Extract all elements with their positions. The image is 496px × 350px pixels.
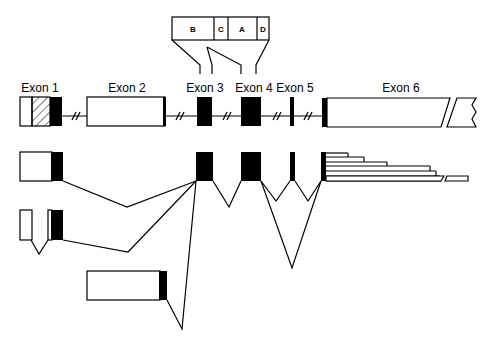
protein-domain-box: B C A D [172, 17, 269, 74]
transcript-variant-1 [20, 152, 468, 268]
domain-label-b: B [190, 25, 196, 34]
exon-1-label: Exon 1 [21, 81, 59, 95]
gene-structure-diagram: B C A D Exon 1 Exon 2 Exon 3 Exon 4 Exon… [0, 0, 496, 350]
domain-label-a: A [239, 25, 245, 34]
exon-5-label: Exon 5 [276, 81, 314, 95]
transcript-variant-2 [20, 181, 196, 254]
exon-6-label: Exon 6 [382, 81, 420, 95]
genomic-structure [20, 97, 476, 127]
exon-2-label: Exon 2 [108, 81, 146, 95]
domain-label-d: D [260, 25, 266, 34]
domain-label-c: C [218, 25, 224, 34]
exon-4-label: Exon 4 [235, 81, 273, 95]
transcript-variant-3 [87, 181, 196, 329]
exon-3-label: Exon 3 [186, 81, 224, 95]
